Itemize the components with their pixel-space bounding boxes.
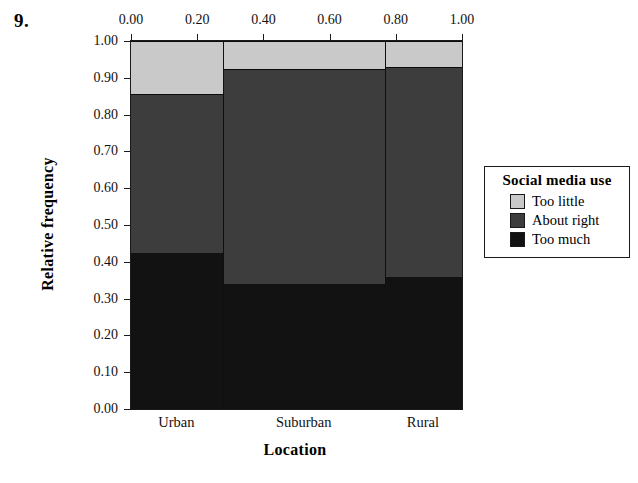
y-tick-label: 0.20 (94, 328, 119, 342)
y-axis-title: Relative frequency (39, 157, 57, 291)
y-tick-label: 0.70 (94, 144, 119, 158)
mosaic-segment-urban-too-much[interactable] (131, 253, 223, 409)
legend-item-label: Too much (532, 231, 590, 248)
mosaic-segment-suburban-too-little[interactable] (224, 41, 385, 69)
legend-items: Too littleAbout rightToo much (492, 193, 622, 248)
mosaic-column-urban[interactable] (131, 41, 224, 409)
mosaic-segment-suburban-about-right[interactable] (224, 69, 385, 284)
legend-item-about-right[interactable]: About right (510, 212, 622, 229)
y-tick-label: 0.50 (94, 218, 119, 232)
legend-swatch-icon (510, 213, 525, 228)
mosaic-segment-rural-too-little[interactable] (386, 41, 462, 67)
mosaic-column-rural[interactable] (386, 41, 462, 409)
mosaic-segment-urban-too-little[interactable] (131, 41, 223, 94)
y-tick-label: 0.60 (94, 181, 119, 195)
x-tick-label: 0.60 (317, 13, 342, 27)
y-tick-mark (124, 151, 131, 152)
y-tick-label: 0.00 (94, 402, 119, 416)
x-axis-title: Location (264, 441, 327, 459)
x-tick-mark (263, 34, 264, 41)
x-tick-mark (396, 34, 397, 41)
figure-number: 9. (14, 10, 29, 32)
y-tick-mark (124, 372, 131, 373)
y-tick-label: 1.00 (94, 34, 119, 48)
mosaic-segment-rural-too-much[interactable] (386, 277, 462, 409)
legend-title: Social media use (492, 172, 622, 189)
x-tick-mark (462, 34, 463, 41)
legend-swatch-icon (510, 232, 525, 247)
x-tick-mark (330, 34, 331, 41)
x-tick-mark (197, 34, 198, 41)
legend-box: Social media use Too littleAbout rightTo… (484, 166, 630, 258)
y-tick-label: 0.10 (94, 365, 119, 379)
y-tick-mark (124, 409, 131, 410)
legend-swatch-icon (510, 194, 525, 209)
y-tick-mark (124, 262, 131, 263)
x-tick-label: 0.80 (384, 13, 409, 27)
x-tick-label: 0.20 (185, 13, 210, 27)
category-label-urban: Urban (158, 414, 194, 431)
y-tick-mark (124, 299, 131, 300)
chart-plot-area: 0.000.200.400.600.801.00 0.000.100.200.3… (130, 40, 463, 410)
legend-item-label: About right (532, 212, 599, 229)
mosaic-segment-suburban-too-much[interactable] (224, 284, 385, 409)
mosaic-segment-rural-about-right[interactable] (386, 67, 462, 277)
x-tick-label: 1.00 (450, 13, 475, 27)
y-tick-mark (124, 115, 131, 116)
mosaic-segment-urban-about-right[interactable] (131, 94, 223, 252)
y-tick-mark (124, 188, 131, 189)
category-label-rural: Rural (407, 414, 439, 431)
y-tick-label: 0.90 (94, 71, 119, 85)
y-tick-mark (124, 225, 131, 226)
category-label-suburban: Suburban (276, 414, 332, 431)
mosaic-column-suburban[interactable] (224, 41, 386, 409)
y-tick-mark (124, 78, 131, 79)
legend-item-too-little[interactable]: Too little (510, 193, 622, 210)
legend-item-label: Too little (532, 193, 585, 210)
x-tick-label: 0.40 (251, 13, 276, 27)
x-tick-mark (131, 34, 132, 41)
y-tick-label: 0.30 (94, 292, 119, 306)
x-tick-label: 0.00 (119, 13, 144, 27)
y-tick-label: 0.40 (94, 255, 119, 269)
y-tick-label: 0.80 (94, 108, 119, 122)
legend-item-too-much[interactable]: Too much (510, 231, 622, 248)
y-tick-mark (124, 41, 131, 42)
y-tick-mark (124, 335, 131, 336)
